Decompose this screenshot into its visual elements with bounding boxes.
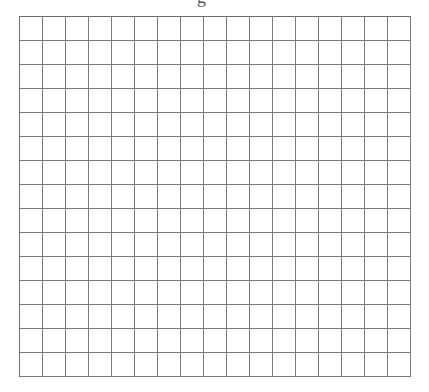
grid-cell bbox=[319, 137, 342, 161]
grid-cell bbox=[296, 89, 319, 113]
grid-cell bbox=[319, 113, 342, 137]
grid-cell bbox=[112, 161, 135, 185]
grid-cell bbox=[135, 41, 158, 65]
grid-cell bbox=[388, 185, 411, 209]
grid-cell bbox=[273, 113, 296, 137]
grid-cell bbox=[365, 209, 388, 233]
grid-cell bbox=[204, 209, 227, 233]
grid-cell bbox=[66, 281, 89, 305]
grid-cell bbox=[181, 41, 204, 65]
grid-cell bbox=[89, 209, 112, 233]
grid-cell bbox=[112, 209, 135, 233]
grid-cell bbox=[181, 281, 204, 305]
grid-cell bbox=[296, 65, 319, 89]
grid-cell bbox=[20, 17, 43, 41]
grid-cell bbox=[66, 353, 89, 377]
grid-cell bbox=[181, 65, 204, 89]
grid-cell bbox=[43, 161, 66, 185]
grid-cell bbox=[227, 329, 250, 353]
grid-cell bbox=[365, 89, 388, 113]
grid-cell bbox=[250, 17, 273, 41]
grid-cell bbox=[181, 137, 204, 161]
grid-cell bbox=[135, 89, 158, 113]
grid-cell bbox=[204, 113, 227, 137]
grid-cell bbox=[43, 113, 66, 137]
grid-cell bbox=[388, 41, 411, 65]
grid-cell bbox=[20, 329, 43, 353]
grid-cell bbox=[273, 41, 296, 65]
grid-cell bbox=[342, 65, 365, 89]
grid-cell bbox=[112, 113, 135, 137]
grid-cell bbox=[365, 65, 388, 89]
grid-cell bbox=[181, 353, 204, 377]
grid-cell bbox=[158, 281, 181, 305]
grid-cell bbox=[227, 17, 250, 41]
grid-cell bbox=[296, 329, 319, 353]
grid-cell bbox=[204, 41, 227, 65]
grid-cell bbox=[158, 353, 181, 377]
grid-cell bbox=[135, 137, 158, 161]
grid-cell bbox=[388, 281, 411, 305]
grid-cell bbox=[342, 161, 365, 185]
grid-cell bbox=[135, 353, 158, 377]
grid-cell bbox=[227, 353, 250, 377]
grid-cell bbox=[342, 257, 365, 281]
grid-cell bbox=[319, 185, 342, 209]
grid-cell bbox=[181, 17, 204, 41]
grid-cell bbox=[158, 89, 181, 113]
grid-cell bbox=[181, 329, 204, 353]
grid-cell bbox=[20, 233, 43, 257]
grid-cell bbox=[112, 185, 135, 209]
grid-cell bbox=[112, 89, 135, 113]
grid-cell bbox=[273, 329, 296, 353]
grid-cell bbox=[89, 257, 112, 281]
grid-cell bbox=[158, 161, 181, 185]
blank-grid bbox=[19, 16, 411, 377]
grid-cell bbox=[135, 257, 158, 281]
grid-cell bbox=[20, 137, 43, 161]
grid-cell bbox=[227, 65, 250, 89]
grid-cell bbox=[227, 209, 250, 233]
grid-cell bbox=[227, 41, 250, 65]
grid-cell bbox=[181, 89, 204, 113]
grid-cell bbox=[250, 353, 273, 377]
grid-cell bbox=[20, 353, 43, 377]
grid-cell bbox=[135, 209, 158, 233]
grid-cell bbox=[273, 281, 296, 305]
grid-cell bbox=[365, 233, 388, 257]
grid-cell bbox=[181, 305, 204, 329]
grid-cell bbox=[319, 209, 342, 233]
grid-cell bbox=[388, 89, 411, 113]
grid-cell bbox=[342, 281, 365, 305]
grid-cell bbox=[227, 233, 250, 257]
grid-cell bbox=[365, 329, 388, 353]
grid-cell bbox=[66, 65, 89, 89]
grid-cell bbox=[388, 353, 411, 377]
grid-cell bbox=[273, 17, 296, 41]
grid-cell bbox=[342, 113, 365, 137]
grid-cell bbox=[342, 209, 365, 233]
grid-cell bbox=[43, 89, 66, 113]
grid-cell bbox=[227, 137, 250, 161]
grid-cell bbox=[135, 185, 158, 209]
grid-cell bbox=[43, 233, 66, 257]
grid-cell bbox=[20, 185, 43, 209]
grid-cell bbox=[158, 305, 181, 329]
grid-cell bbox=[319, 233, 342, 257]
grid-cell bbox=[250, 65, 273, 89]
grid-cell bbox=[158, 65, 181, 89]
grid-cell bbox=[319, 65, 342, 89]
grid-cell bbox=[250, 233, 273, 257]
grid-cell bbox=[89, 113, 112, 137]
grid-cell bbox=[342, 353, 365, 377]
grid-cell bbox=[296, 17, 319, 41]
grid-cell bbox=[365, 161, 388, 185]
grid-cell bbox=[296, 353, 319, 377]
grid-cell bbox=[158, 41, 181, 65]
grid-cell bbox=[43, 17, 66, 41]
grid-cell bbox=[20, 41, 43, 65]
grid-cell bbox=[89, 185, 112, 209]
grid-cell bbox=[319, 161, 342, 185]
grid-cell bbox=[158, 209, 181, 233]
grid-cell bbox=[181, 209, 204, 233]
